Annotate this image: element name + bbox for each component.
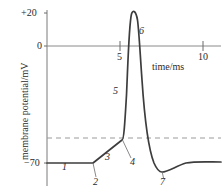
x-tick-label-10: 10: [198, 52, 208, 62]
y-tick-label-plus20: +20: [21, 8, 37, 18]
y-tick-label-zero: 0: [37, 41, 42, 51]
callout-3: 3: [105, 152, 110, 162]
y-axis-title: membrane potential/mV: [20, 63, 30, 160]
x-axis-title: time/ms: [152, 62, 184, 72]
callout-1: 1: [62, 162, 67, 172]
y-tick-label-minus70: −70: [24, 158, 40, 168]
action-potential-curve: [47, 11, 221, 172]
callout-2: 2: [93, 177, 98, 187]
leader-line-2: [93, 163, 96, 177]
x-tick-label-5: 5: [117, 52, 122, 62]
action-potential-figure: membrane potential/mV +20 0 −70 5 10 tim…: [0, 0, 224, 195]
callout-4: 4: [130, 157, 135, 167]
callout-5: 5: [113, 86, 118, 96]
callout-7: 7: [160, 177, 165, 187]
callout-6: 6: [139, 26, 144, 36]
